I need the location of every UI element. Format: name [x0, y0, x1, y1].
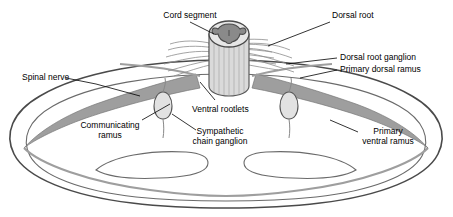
label-communicating-ramus: Communicating ramus: [70, 120, 150, 140]
label-dorsal-root-ganglion: Dorsal root ganglion: [340, 52, 416, 62]
label-dorsal-root: Dorsal root: [332, 10, 374, 20]
label-cord-segment: Cord segment: [125, 10, 255, 20]
cord-segment: [209, 21, 249, 96]
label-spinal-nerve: Spinal nerve: [22, 72, 69, 82]
label-ventral-rootlets: Ventral rootlets: [192, 104, 249, 114]
label-primary-ventral-ramus: Primary ventral ramus: [348, 126, 428, 146]
label-primary-dorsal-ramus: Primary dorsal ramus: [340, 64, 421, 74]
label-sympathetic-chain-ganglion: Sympathetic chain ganglion: [178, 126, 262, 146]
diagram-container: Cord segment Dorsal root Dorsal root gan…: [0, 0, 453, 217]
